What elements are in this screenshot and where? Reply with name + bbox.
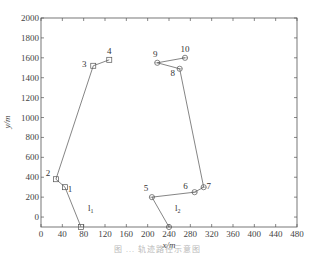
point-label: 4 [107,46,112,56]
y-tick-label: 1000 [21,113,40,123]
y-tick-label: 200 [26,192,40,202]
y-tick-label: 1400 [21,73,40,83]
point-label: 1 [68,184,73,194]
y-tick-label: 400 [26,172,40,182]
x-tick-label: 160 [120,229,134,239]
x-tick-label: 400 [248,229,262,239]
point-label: 3 [82,59,87,69]
point-label: 2 [46,168,51,178]
figure-caption: 图 ... 轨迹路径示意图 [0,243,315,254]
y-tick-label: 1200 [21,93,40,103]
point-label: 5 [144,183,149,193]
x-tick-label: 480 [290,229,304,239]
x-tick-label: 0 [39,229,44,239]
x-tick-label: 80 [79,229,89,239]
plot-area [41,18,297,227]
y-tick-label: 800 [26,132,40,142]
y-axis-label: y/m [2,115,12,129]
y-tick-label: 2000 [21,13,40,23]
y-tick-label: 1600 [21,53,40,63]
x-tick-label: 360 [226,229,240,239]
y-tick-label: 0 [35,212,40,222]
x-tick-label: 40 [58,229,68,239]
x-tick-label: 120 [98,229,112,239]
y-tick-label: 600 [26,152,40,162]
point-label: 10 [181,44,191,54]
point-label: 6 [183,181,188,191]
x-tick-label: 280 [184,229,198,239]
point-label: 9 [153,49,158,59]
chart-canvas: 04080120160200240280320360400440480 0200… [0,0,315,257]
y-tick-label: 1800 [21,33,40,43]
point-label: 7 [206,181,211,191]
point-label: 8 [170,68,175,78]
x-tick-label: 240 [162,229,176,239]
x-tick-label: 440 [269,229,283,239]
x-tick-label: 320 [205,229,219,239]
x-tick-label: 200 [141,229,155,239]
